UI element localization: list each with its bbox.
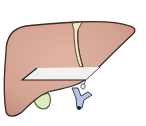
liver-illustration: Liver (anterior view) [0, 0, 146, 126]
hepatic-vessel-icon [72, 84, 92, 110]
